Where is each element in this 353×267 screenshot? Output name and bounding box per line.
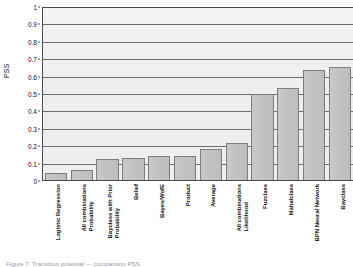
- x-label-slot: Bayclass with PriorProbability: [94, 182, 120, 254]
- x-label-slot: Belief: [120, 182, 146, 254]
- y-tick-label: 0.3: [28, 125, 37, 132]
- bar-slot: [250, 7, 276, 180]
- x-tick-label: Bayes/WofE: [159, 184, 166, 218]
- x-label-slot: All combinationsLikelihood: [223, 182, 249, 254]
- bar-slot: [146, 7, 172, 180]
- x-label-slot: Product: [172, 182, 198, 254]
- y-tick-mark: [38, 41, 40, 42]
- y-tick-label: 0.4: [28, 108, 37, 115]
- x-tick-label: Bayclass: [340, 184, 347, 210]
- x-label-slot: Average: [198, 182, 224, 254]
- x-tick-label-line1: Product: [185, 184, 191, 206]
- y-tick-mark: [38, 7, 40, 8]
- x-tick-label-line1: Bayclass with Prior: [107, 184, 113, 238]
- bar[interactable]: [45, 173, 67, 180]
- bar-slot: [301, 7, 327, 180]
- bar-slot: [172, 7, 198, 180]
- y-tick-label: 0.6: [28, 73, 37, 80]
- bar[interactable]: [200, 149, 222, 180]
- bar-slot: [275, 7, 301, 180]
- bar[interactable]: [122, 158, 144, 180]
- bar[interactable]: [329, 67, 351, 180]
- x-tick-label: BPN Neural Network: [314, 184, 321, 241]
- bar-slot: [95, 7, 121, 180]
- x-tick-label: Product: [185, 184, 192, 206]
- x-label-slot: Bayclass: [327, 182, 353, 254]
- x-tick-label: Logistic Regression: [55, 184, 62, 240]
- y-tick-mark: [38, 59, 40, 60]
- x-tick-label-line1: All combinations: [236, 184, 242, 232]
- x-tick-label: Mahalclass: [288, 184, 295, 216]
- y-tick-mark: [38, 128, 40, 129]
- x-tick-label-line1: Fuzclass: [262, 184, 268, 209]
- y-tick-mark: [38, 76, 40, 77]
- bar-slot: [198, 7, 224, 180]
- y-tick-mark: [38, 163, 40, 164]
- x-tick-label-line1: Average: [210, 184, 216, 207]
- bar[interactable]: [71, 170, 93, 180]
- bar[interactable]: [277, 88, 299, 180]
- bar-slot: [327, 7, 353, 180]
- x-tick-label-line1: Logistic Regression: [55, 184, 61, 240]
- bar[interactable]: [148, 156, 170, 180]
- x-tick-label: Fuzclass: [262, 184, 269, 209]
- x-label-slot: Bayes/WofE: [146, 182, 172, 254]
- x-tick-label-line1: BPN Neural Network: [314, 184, 320, 241]
- figure-container: PSS 10.90.80.70.60.50.40.30.20.10 Logist…: [0, 0, 353, 267]
- bar[interactable]: [251, 94, 273, 181]
- bar-slot: [43, 7, 69, 180]
- bar[interactable]: [303, 70, 325, 180]
- x-tick-label: All combinationsLikelihood: [236, 184, 249, 232]
- x-tick-label: Average: [210, 184, 217, 207]
- y-tick-mark: [38, 111, 40, 112]
- y-tick-label: 0.9: [28, 21, 37, 28]
- x-label-slot: Logistic Regression: [42, 182, 68, 254]
- bar[interactable]: [226, 143, 248, 180]
- x-tick-label-line1: Belief: [133, 184, 139, 200]
- bar[interactable]: [96, 159, 118, 180]
- figure-caption: Figure 7. Transition potential — compari…: [6, 260, 349, 267]
- x-label-slot: Mahalclass: [275, 182, 301, 254]
- y-tick-label: 0: [33, 178, 37, 185]
- y-tick-label: 1: [33, 4, 37, 11]
- y-tick-mark: [38, 94, 40, 95]
- plot-wrapper: 10.90.80.70.60.50.40.30.20.10: [18, 4, 353, 186]
- y-axis-ticks: 10.90.80.70.60.50.40.30.20.10: [18, 4, 40, 182]
- x-axis-labels: Logistic RegressionAll combinationsProba…: [42, 182, 353, 254]
- x-tick-label: Belief: [133, 184, 140, 200]
- y-tick-mark: [38, 146, 40, 147]
- x-tick-label: Bayclass with PriorProbability: [107, 184, 120, 238]
- x-tick-label-line1: Bayclass: [340, 184, 346, 210]
- x-label-slot: All combinationsProbability: [68, 182, 94, 254]
- x-tick-label: All combinationsProbability: [81, 184, 94, 232]
- plot-area: [42, 7, 353, 181]
- bar-series: [43, 7, 353, 180]
- y-tick-label: 0.2: [28, 143, 37, 150]
- x-tick-label-line1: Bayes/WofE: [159, 184, 165, 218]
- y-tick-label: 0.1: [28, 160, 37, 167]
- bar-slot: [224, 7, 250, 180]
- x-tick-label-line1: Mahalclass: [288, 184, 294, 216]
- bar-slot: [120, 7, 146, 180]
- x-label-slot: Fuzclass: [249, 182, 275, 254]
- x-tick-label-line1: All combinations: [81, 184, 87, 232]
- y-tick-mark: [38, 181, 40, 182]
- y-tick-label: 0.5: [28, 91, 37, 98]
- y-tick-mark: [38, 24, 40, 25]
- bar[interactable]: [174, 156, 196, 180]
- y-axis-title: PSS: [2, 66, 12, 78]
- x-label-slot: BPN Neural Network: [301, 182, 327, 254]
- bar-slot: [69, 7, 95, 180]
- y-tick-label: 0.7: [28, 56, 37, 63]
- y-tick-label: 0.8: [28, 38, 37, 45]
